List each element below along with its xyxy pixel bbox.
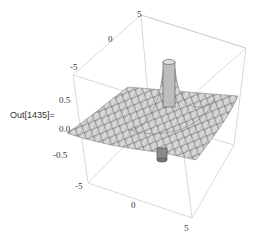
surface [67, 60, 238, 163]
y-tick-neg5: -5 [70, 62, 78, 72]
z-tick-neg0.5: -0.5 [53, 150, 68, 160]
y-tick-0: 0 [108, 34, 113, 44]
z-tick-0.5: 0.5 [59, 95, 71, 105]
x-tick-0: 0 [131, 200, 136, 210]
z-tick-0.0: 0.0 [59, 124, 71, 134]
x-tick-neg5: -5 [75, 181, 83, 191]
y-tick-5: 5 [137, 9, 142, 19]
x-tick-5: 5 [184, 223, 189, 233]
plot3d-graphic[interactable]: 5 0 -5 0.5 0.0 -0.5 -5 0 5 [0, 0, 253, 241]
